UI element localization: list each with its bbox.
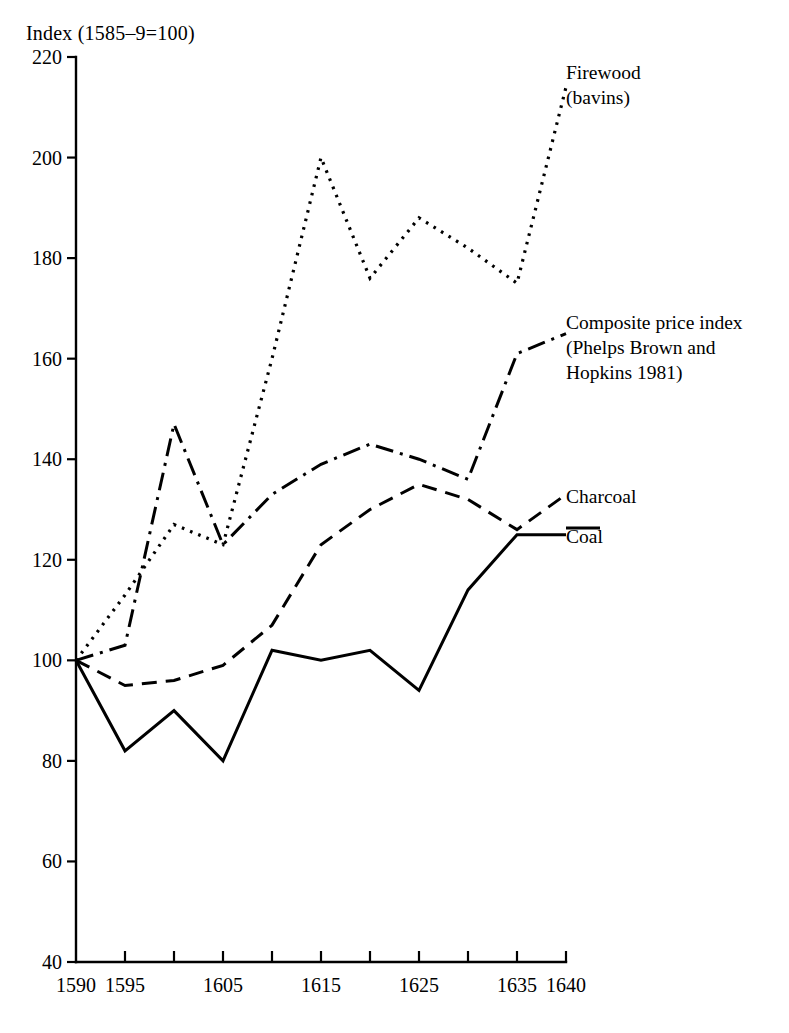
series-line-coal	[76, 535, 566, 761]
x-tick-label: 1625	[399, 974, 439, 996]
chart-plot-area: 406080100120140160180200220 159015951605…	[0, 0, 789, 1033]
chart-figure: Index (1585–9=100) 406080100120140160180…	[0, 0, 789, 1033]
x-tick-label: 1635	[497, 974, 537, 996]
y-axis-ticks	[67, 57, 76, 962]
series-label-composite: Composite price index (Phelps Brown and …	[566, 310, 743, 385]
y-tick-label: 120	[32, 549, 62, 571]
x-axis-ticks	[125, 951, 566, 962]
chart-series-lines	[76, 87, 600, 761]
y-tick-label: 180	[32, 247, 62, 269]
x-axis-tick-labels: 1590159516051615162516351640	[56, 974, 586, 996]
y-tick-label: 220	[32, 46, 62, 68]
series-label-firewood-line1: Firewood	[566, 60, 641, 85]
x-axis: 1590159516051615162516351640	[56, 951, 586, 996]
x-tick-label: 1615	[301, 974, 341, 996]
y-tick-label: 200	[32, 147, 62, 169]
y-axis-tick-labels: 406080100120140160180200220	[32, 46, 62, 973]
x-tick-label: 1640	[546, 974, 586, 996]
series-label-composite-line3: Hopkins 1981)	[566, 360, 743, 385]
series-label-composite-line2: (Phelps Brown and	[566, 335, 743, 360]
x-tick-label: 1590	[56, 974, 96, 996]
series-line-firewood	[76, 87, 566, 660]
y-tick-label: 80	[42, 750, 62, 772]
y-tick-label: 40	[42, 951, 62, 973]
series-label-charcoal: Charcoal	[566, 484, 636, 509]
series-label-coal: Coal	[566, 524, 603, 549]
y-tick-label: 100	[32, 649, 62, 671]
x-tick-label: 1605	[203, 974, 243, 996]
series-label-firewood: Firewood (bavins)	[566, 60, 641, 110]
y-axis: 406080100120140160180200220	[32, 46, 76, 973]
series-line-composite	[76, 334, 566, 661]
series-label-firewood-line2: (bavins)	[566, 85, 641, 110]
series-line-charcoal	[76, 484, 566, 685]
y-tick-label: 160	[32, 348, 62, 370]
y-tick-label: 60	[42, 850, 62, 872]
x-tick-label: 1595	[105, 974, 145, 996]
series-label-composite-line1: Composite price index	[566, 310, 743, 335]
y-tick-label: 140	[32, 448, 62, 470]
